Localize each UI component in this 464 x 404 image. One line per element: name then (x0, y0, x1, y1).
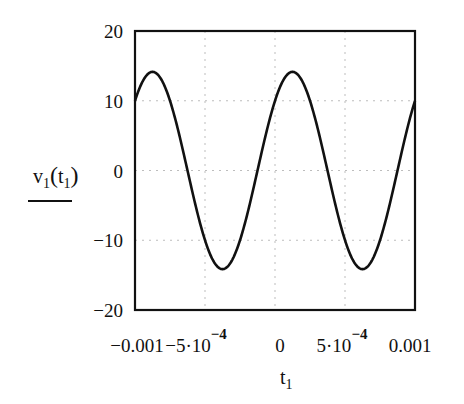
y-tick-label: −10 (93, 230, 123, 251)
x-tick-labels: −0.001−5·10−405·10−40.001 (110, 326, 431, 356)
y-tick-label: 0 (114, 161, 124, 182)
x-tick-label: 5·10−4 (317, 326, 368, 356)
y-tick-label: 20 (104, 21, 123, 42)
y-axis-title: v1(t1) (33, 162, 79, 191)
y-tick-labels: 20100−10−20 (93, 21, 123, 321)
y-tick-label: 10 (104, 91, 123, 112)
x-axis-title: t1 (280, 366, 293, 392)
x-tick-label: 0.001 (389, 335, 432, 356)
x-tick-label: −0.001 (110, 335, 163, 356)
x-tick-label: −5·10−4 (165, 326, 227, 356)
sine-wave-chart: 20100−10−20 −0.001−5·10−405·10−40.001 v1… (0, 0, 464, 404)
x-tick-label: 0 (275, 335, 285, 356)
gridlines (135, 31, 415, 310)
y-tick-label: −20 (93, 300, 123, 321)
